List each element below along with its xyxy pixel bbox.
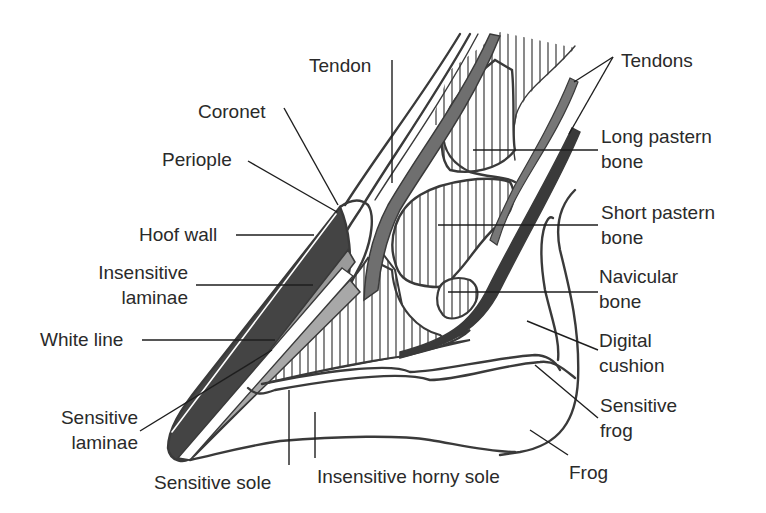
- label-long-pastern-bone-line2: bone: [601, 149, 712, 174]
- label-short-pastern-bone-line2: bone: [601, 225, 715, 250]
- label-navicular-bone-line1: Navicular: [599, 264, 678, 289]
- label-hoof-wall: Hoof wall: [139, 222, 217, 247]
- label-tendon: Tendon: [309, 53, 371, 78]
- label-sensitive-frog-line2: frog: [600, 418, 677, 443]
- label-periople: Periople: [162, 147, 232, 172]
- label-white-line: White line: [40, 327, 123, 352]
- label-sensitive-laminae: Sensitive laminae: [48, 405, 138, 455]
- heel-bulb-line: [545, 217, 553, 225]
- navicular-bone: [437, 278, 477, 318]
- label-long-pastern-bone: Long pastern bone: [601, 124, 712, 174]
- heel-outer-outline: [500, 190, 578, 455]
- label-digital-cushion-line2: cushion: [599, 353, 665, 378]
- label-frog: Frog: [569, 460, 608, 485]
- label-long-pastern-bone-line1: Long pastern: [601, 124, 712, 149]
- label-insensitive-laminae-line2: laminae: [88, 285, 188, 310]
- label-sensitive-sole: Sensitive sole: [154, 470, 271, 495]
- label-navicular-bone-line2: bone: [599, 289, 678, 314]
- label-short-pastern-bone: Short pastern bone: [601, 200, 715, 250]
- label-sensitive-frog: Sensitive frog: [600, 393, 677, 443]
- label-navicular-bone: Navicular bone: [599, 264, 678, 314]
- label-digital-cushion-line1: Digital: [599, 328, 665, 353]
- label-coronet: Coronet: [198, 99, 266, 124]
- label-sensitive-frog-line1: Sensitive: [600, 393, 677, 418]
- label-insensitive-laminae: Insensitive laminae: [88, 260, 188, 310]
- label-digital-cushion: Digital cushion: [599, 328, 665, 378]
- label-sensitive-laminae-line1: Sensitive: [48, 405, 138, 430]
- label-tendons: Tendons: [621, 48, 693, 73]
- ground-surface-sole: [190, 437, 515, 460]
- label-sensitive-laminae-line2: laminae: [48, 430, 138, 455]
- label-insensitive-horny-sole: Insensitive horny sole: [317, 464, 500, 489]
- label-insensitive-laminae-line1: Insensitive: [88, 260, 188, 285]
- label-short-pastern-bone-line1: Short pastern: [601, 200, 715, 225]
